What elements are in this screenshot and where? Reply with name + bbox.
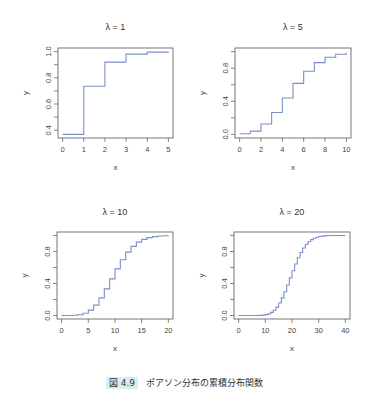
y-axis-label: y (197, 274, 206, 278)
x-tick-label: 2 (103, 145, 107, 154)
y-tick-label: 0.4 (44, 125, 53, 135)
cdf-step-line (239, 235, 346, 315)
x-axis-label: x (114, 163, 118, 172)
y-tick-label: 0.0 (43, 310, 52, 320)
x-tick-label: 10 (342, 145, 350, 154)
y-tick-label: 0.4 (220, 278, 229, 288)
plot-title: λ = 10 (103, 207, 128, 217)
x-tick-label: 0 (60, 326, 64, 335)
x-tick-label: 3 (124, 145, 128, 154)
y-tick-label: 0.0 (220, 310, 229, 320)
y-tick-label: 0.8 (43, 246, 52, 256)
x-axis-label: x (290, 344, 294, 353)
y-tick-label: 0.8 (44, 73, 53, 83)
y-tick-label: 0.8 (220, 246, 229, 256)
y-tick-label: 0.4 (221, 96, 230, 106)
figure-caption: 図 4.9ポアソン分布の累積分布関数 (0, 376, 369, 389)
x-tick-label: 30 (315, 326, 323, 335)
x-tick-label: 0 (237, 326, 241, 335)
y-axis-label: y (20, 274, 29, 278)
x-tick-label: 40 (341, 326, 349, 335)
y-tick-label: 1.0 (44, 46, 53, 56)
plot-title: λ = 5 (283, 22, 303, 32)
x-tick-label: 2 (259, 145, 263, 154)
y-tick-label: 0.0 (221, 129, 230, 139)
x-tick-label: 4 (280, 145, 284, 154)
x-tick-label: 0 (61, 145, 65, 154)
x-tick-label: 6 (302, 145, 306, 154)
y-tick-label: 0.8 (221, 63, 230, 73)
plot-title: λ = 1 (106, 22, 126, 32)
plot-panel-4: λ = 200102030400.00.40.8xy (197, 207, 350, 353)
plot-title: λ = 20 (280, 207, 305, 217)
x-tick-label: 0 (238, 145, 242, 154)
plot-panel-2: λ = 502468100.00.40.8xy (198, 22, 351, 172)
x-tick-label: 5 (86, 326, 90, 335)
x-axis-label: x (113, 344, 117, 353)
cdf-step-line (63, 52, 169, 135)
cdf-step-line (240, 53, 347, 134)
x-tick-label: 10 (111, 326, 119, 335)
plot-frame (58, 48, 173, 138)
plot-panel-3: λ = 10051015200.00.40.8xy (20, 207, 173, 353)
x-tick-label: 10 (261, 326, 269, 335)
y-tick-label: 0.4 (43, 278, 52, 288)
plot-panel-1: λ = 10123450.40.60.81.0xy (21, 22, 173, 172)
figure-number: 図 4.9 (106, 377, 138, 389)
y-axis-label: y (198, 91, 207, 95)
y-tick-label: 0.6 (44, 99, 53, 109)
cdf-step-line (62, 236, 169, 316)
x-tick-label: 5 (166, 145, 170, 154)
x-axis-label: x (291, 163, 295, 172)
x-tick-label: 20 (288, 326, 296, 335)
x-tick-label: 1 (82, 145, 86, 154)
x-tick-label: 15 (138, 326, 146, 335)
y-axis-label: y (21, 91, 30, 95)
x-tick-label: 20 (164, 326, 172, 335)
x-tick-label: 4 (145, 145, 149, 154)
x-tick-label: 8 (323, 145, 327, 154)
caption-text: ポアソン分布の累積分布関数 (146, 378, 263, 388)
figure: λ = 10123450.40.60.81.0xyλ = 502468100.0… (0, 0, 369, 401)
